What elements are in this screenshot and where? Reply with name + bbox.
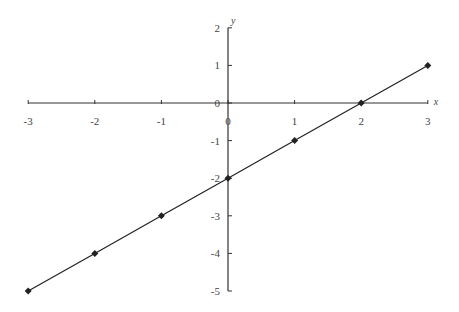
y-tick-label: -1 — [211, 135, 220, 147]
diamond-marker — [25, 288, 32, 295]
tick-labels: -3-2-10123210-1-2-3-4-5xy — [24, 15, 439, 297]
x-tick-label: 0 — [225, 115, 231, 127]
axes — [28, 28, 428, 291]
x-tick-label: 2 — [358, 115, 364, 127]
x-tick-label: 1 — [292, 115, 298, 127]
diamond-marker — [158, 212, 165, 219]
y-tick-label: 2 — [215, 22, 221, 34]
line-chart: -3-2-10123210-1-2-3-4-5xy — [0, 0, 459, 312]
x-tick-label: 3 — [425, 115, 431, 127]
diamond-marker — [91, 250, 98, 257]
y-axis-label: y — [230, 15, 236, 26]
y-tick-label: 1 — [215, 59, 221, 71]
y-tick-label: 0 — [215, 97, 221, 109]
x-tick-label: -1 — [157, 115, 166, 127]
y-tick-label: -2 — [211, 172, 220, 184]
x-axis-label: x — [433, 96, 439, 107]
y-tick-label: -5 — [211, 285, 221, 297]
y-tick-label: -3 — [211, 210, 221, 222]
diamond-marker — [358, 100, 365, 107]
diamond-marker — [225, 175, 232, 182]
x-tick-label: -2 — [90, 115, 99, 127]
x-tick-label: -3 — [24, 115, 34, 127]
diamond-marker — [424, 62, 431, 69]
diamond-marker — [291, 137, 298, 144]
y-tick-label: -4 — [211, 247, 221, 259]
